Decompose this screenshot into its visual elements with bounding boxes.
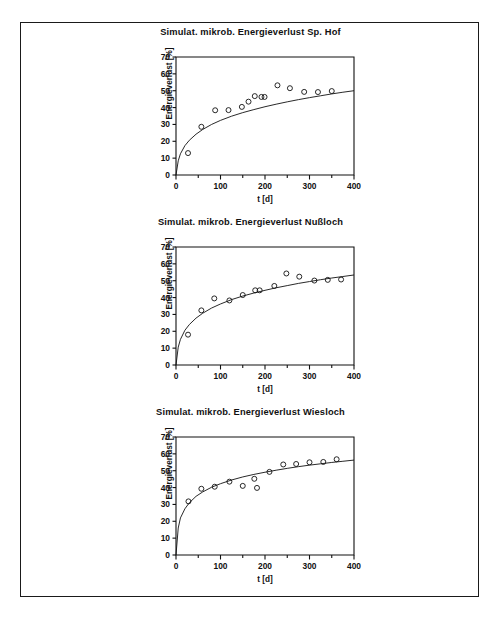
- y-tick-label: 0: [165, 360, 170, 370]
- plot-frame: [176, 247, 354, 365]
- data-point-marker: [294, 461, 299, 466]
- data-point-marker: [284, 271, 289, 276]
- plot-area: Energieverlust [%] 010203040506070010020…: [176, 247, 354, 365]
- x-tick-label: 400: [347, 371, 361, 381]
- figure-border: Simulat. mikrob. Energieverlust Sp. Hof …: [20, 22, 479, 597]
- data-point-marker: [329, 89, 334, 94]
- data-point-marker: [186, 332, 191, 337]
- x-axis-label: t [d]: [176, 575, 354, 584]
- y-tick-label: 70: [161, 242, 171, 252]
- y-tick-label: 0: [165, 170, 170, 180]
- data-point-marker: [240, 483, 245, 488]
- data-point-marker: [199, 124, 204, 129]
- data-point-marker: [334, 457, 339, 462]
- plot-area: Energieverlust [%] 010203040506070010020…: [176, 57, 354, 175]
- data-point-marker: [213, 108, 218, 113]
- y-tick-label: 70: [161, 432, 171, 442]
- data-point-marker: [262, 94, 267, 99]
- x-tick-label: 100: [214, 561, 228, 571]
- fit-curve: [176, 91, 354, 175]
- data-point-marker: [281, 462, 286, 467]
- y-tick-label: 50: [161, 466, 171, 476]
- panel-title: Simulat. mikrob. Energieverlust Sp. Hof: [21, 27, 480, 37]
- data-point-marker: [199, 308, 204, 313]
- data-point-marker: [315, 90, 320, 95]
- data-point-marker: [339, 277, 344, 282]
- x-tick-label: 200: [258, 561, 272, 571]
- y-tick-label: 70: [161, 52, 171, 62]
- y-tick-label: 60: [161, 259, 171, 269]
- plot-svg-2: 0102030405060700100200300400: [176, 437, 354, 555]
- y-tick-label: 10: [161, 343, 171, 353]
- data-point-marker: [186, 151, 191, 156]
- x-tick-label: 200: [258, 371, 272, 381]
- data-point-marker: [254, 485, 259, 490]
- plot-svg-0: 0102030405060700100200300400: [176, 57, 354, 175]
- x-tick-label: 200: [258, 181, 272, 191]
- panel-title: Simulat. mikrob. Energieverlust Nußloch: [21, 217, 480, 227]
- panel-title: Simulat. mikrob. Energieverlust Wiesloch: [21, 407, 480, 417]
- data-point-marker: [252, 94, 257, 99]
- y-tick-label: 50: [161, 276, 171, 286]
- x-tick-label: 100: [214, 371, 228, 381]
- x-tick-label: 300: [303, 561, 317, 571]
- x-tick-label: 0: [174, 561, 179, 571]
- data-point-marker: [302, 89, 307, 94]
- y-tick-label: 10: [161, 153, 171, 163]
- x-tick-label: 0: [174, 181, 179, 191]
- chart-panel-wiesloch: Simulat. mikrob. Energieverlust Wiesloch…: [21, 405, 480, 596]
- data-point-marker: [272, 283, 277, 288]
- x-axis-label: t [d]: [176, 195, 354, 204]
- chart-panel-nussloch: Simulat. mikrob. Energieverlust Nußloch …: [21, 215, 480, 406]
- x-tick-label: 300: [303, 371, 317, 381]
- plot-area: Energieverlust [%] 010203040506070010020…: [176, 437, 354, 555]
- y-tick-label: 40: [161, 293, 171, 303]
- y-tick-label: 20: [161, 326, 171, 336]
- x-tick-label: 100: [214, 181, 228, 191]
- y-tick-label: 50: [161, 86, 171, 96]
- y-tick-label: 60: [161, 69, 171, 79]
- data-point-marker: [287, 86, 292, 91]
- data-point-marker: [246, 99, 251, 104]
- y-tick-label: 30: [161, 499, 171, 509]
- data-point-marker: [275, 83, 280, 88]
- data-point-marker: [252, 476, 257, 481]
- y-tick-label: 10: [161, 533, 171, 543]
- data-point-marker: [199, 486, 204, 491]
- y-tick-label: 20: [161, 136, 171, 146]
- fit-curve: [176, 460, 354, 555]
- x-axis-label: t [d]: [176, 385, 354, 394]
- plot-svg-1: 0102030405060700100200300400: [176, 247, 354, 365]
- y-tick-label: 0: [165, 550, 170, 560]
- data-point-marker: [226, 108, 231, 113]
- data-point-marker: [212, 296, 217, 301]
- y-tick-label: 30: [161, 119, 171, 129]
- fit-curve: [176, 275, 354, 365]
- y-tick-label: 60: [161, 449, 171, 459]
- plot-frame: [176, 437, 354, 555]
- y-tick-label: 20: [161, 516, 171, 526]
- x-tick-label: 0: [174, 371, 179, 381]
- y-tick-label: 30: [161, 309, 171, 319]
- x-tick-label: 400: [347, 181, 361, 191]
- data-point-marker: [239, 104, 244, 109]
- data-point-marker: [307, 460, 312, 465]
- plot-frame: [176, 57, 354, 175]
- y-tick-label: 40: [161, 483, 171, 493]
- y-tick-label: 40: [161, 103, 171, 113]
- data-point-marker: [325, 277, 330, 282]
- data-point-marker: [297, 274, 302, 279]
- chart-panel-sp-hof: Simulat. mikrob. Energieverlust Sp. Hof …: [21, 25, 480, 216]
- x-tick-label: 400: [347, 561, 361, 571]
- data-point-marker: [240, 293, 245, 298]
- x-tick-label: 300: [303, 181, 317, 191]
